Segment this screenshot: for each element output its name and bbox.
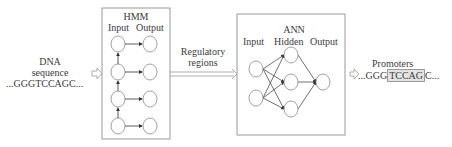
ann-input-label: Input (243, 36, 264, 47)
hmm-title: HMM (102, 11, 170, 22)
output-seq-prefix: ...GGG (358, 70, 387, 81)
ann-title: ANN (279, 24, 309, 35)
promoters-label: Promoters (372, 58, 413, 69)
input-label-sequence: sequence (20, 67, 80, 78)
input-hollow-arrow-icon (92, 68, 102, 79)
input-label-dna: DNA (20, 56, 80, 67)
output-seq-suffix: C... (425, 70, 439, 81)
ann-hidden-label: Hidden (274, 36, 303, 47)
promoter-highlight: TCCAG (387, 69, 425, 82)
regulatory-regions-label-2: regions (172, 57, 234, 68)
regulatory-regions-label-1: Regulatory (172, 46, 234, 57)
output-sequence: ...GGGTCCAGC... (358, 70, 439, 81)
hmm-output-label: Output (136, 22, 164, 33)
hmm-input-label: Input (108, 22, 129, 33)
ann-output-label: Output (310, 36, 338, 47)
input-sequence-text: ...GGGTCCAGC... (6, 78, 83, 89)
regions-double-arrow-icon (170, 69, 237, 79)
